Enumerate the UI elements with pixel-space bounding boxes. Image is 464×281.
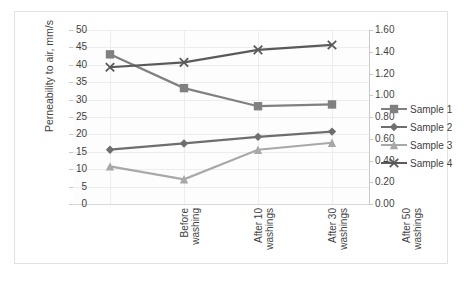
legend-label: Sample 2 — [410, 122, 452, 133]
axis-tick — [369, 74, 373, 75]
series-sample-1 — [106, 50, 336, 110]
data-point-marker — [254, 133, 262, 141]
y-axis-tick-label: 20 — [61, 129, 87, 139]
data-point-marker — [180, 139, 188, 147]
y-axis-tick-label: 50 — [61, 25, 87, 35]
series-layer — [73, 30, 369, 204]
series-sample-4 — [106, 41, 336, 72]
y-axis-title: Perneability to air, mm/s — [43, 0, 55, 156]
secondary-y-axis-tick-label: 0.20 — [375, 177, 407, 187]
axis-tick — [369, 30, 373, 31]
y-axis-tick-label: 35 — [61, 77, 87, 87]
data-point-marker — [180, 84, 188, 92]
legend-label: Sample 3 — [410, 140, 452, 151]
data-point-marker — [390, 159, 398, 167]
legend-marker-icon — [381, 121, 407, 133]
axis-tick — [369, 204, 373, 205]
legend-item-sample-3[interactable]: Sample 3 — [381, 136, 464, 154]
y-axis-tick-label: 10 — [61, 164, 87, 174]
series-line — [110, 143, 332, 180]
axis-tick — [369, 52, 373, 53]
legend-item-sample-2[interactable]: Sample 2 — [381, 118, 464, 136]
chart-frame: Perneability to air, mm/s 05101520253035… — [14, 11, 448, 264]
axis-tick — [369, 117, 373, 118]
legend-marker-glyph — [381, 157, 407, 169]
legend-label: Sample 1 — [410, 104, 452, 115]
legend-marker-icon — [381, 103, 407, 115]
series-line — [110, 45, 332, 67]
y-axis-tick-label: 40 — [61, 60, 87, 70]
legend-item-sample-4[interactable]: Sample 4 — [381, 154, 464, 172]
series-sample-3 — [106, 139, 336, 184]
secondary-y-axis-tick-label: 1.40 — [375, 47, 407, 57]
y-axis-tick-label: 15 — [61, 147, 87, 157]
data-point-marker — [390, 141, 398, 149]
data-point-marker — [254, 102, 262, 110]
legend-marker-glyph — [381, 139, 407, 151]
y-axis-tick-label: 30 — [61, 95, 87, 105]
axis-tick — [369, 161, 373, 162]
x-axis-category-label: Before washing — [179, 208, 201, 281]
data-point-marker — [106, 146, 114, 154]
legend-item-sample-1[interactable]: Sample 1 — [381, 100, 464, 118]
plot-area — [73, 30, 369, 204]
axis-tick — [369, 182, 373, 183]
series-line — [110, 54, 332, 106]
y-axis-tick-label: 5 — [61, 182, 87, 192]
legend-marker-icon — [381, 139, 407, 151]
secondary-y-axis-tick-label: 1.60 — [375, 25, 407, 35]
data-point-marker — [390, 105, 398, 113]
legend-label: Sample 4 — [410, 158, 452, 169]
gridline — [73, 204, 369, 205]
x-axis-category-label: After 10 washings — [253, 208, 275, 281]
secondary-y-axis-tick-label: 1.00 — [375, 90, 407, 100]
x-axis-category-label: After 30 washings — [327, 208, 349, 281]
legend-marker-icon — [381, 157, 407, 169]
axis-tick — [369, 139, 373, 140]
data-point-marker — [328, 100, 336, 108]
y-axis-tick-label: 0 — [61, 199, 87, 209]
legend: Sample 1Sample 2Sample 3Sample 4 — [381, 100, 464, 172]
series-line — [110, 132, 332, 150]
data-point-marker — [106, 50, 114, 58]
x-axis-category-label: After 50 washings — [401, 208, 423, 281]
series-sample-2 — [106, 127, 336, 153]
axis-tick — [369, 95, 373, 96]
secondary-y-axis-tick-label: 1.20 — [375, 69, 407, 79]
y-axis-tick-label: 45 — [61, 42, 87, 52]
legend-marker-glyph — [381, 121, 407, 133]
y-axis-tick-label: 25 — [61, 112, 87, 122]
legend-marker-glyph — [381, 103, 407, 115]
data-point-marker — [390, 123, 398, 131]
data-point-marker — [328, 127, 336, 135]
